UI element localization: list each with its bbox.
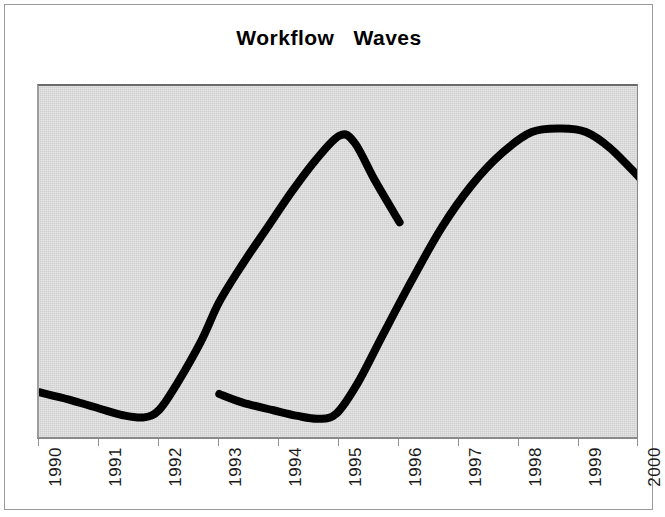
page-title: Workflow Waves	[0, 26, 658, 50]
series-line-wave-1	[39, 134, 400, 417]
series-svg	[39, 86, 638, 438]
plot-area	[37, 84, 638, 438]
series-line-wave-2	[219, 128, 638, 418]
